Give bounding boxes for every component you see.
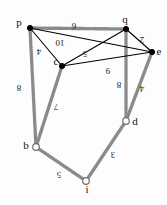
graph-edge-q-e: [126, 29, 152, 52]
graph-diagram: 6104592848753 pqecdbi: [0, 0, 167, 205]
graph-edge-e-d: [126, 52, 152, 121]
node-label-e: e: [157, 45, 162, 57]
edge-weight-p-c: 4: [36, 47, 41, 57]
graph-node-q[interactable]: [123, 26, 128, 31]
edge-weight-q-e: 2: [140, 35, 145, 45]
graph-edge-c-q: [62, 29, 126, 66]
plain-edge-layer: [30, 28, 152, 66]
edge-weight-p-q: 6: [71, 21, 76, 31]
edge-weight-p-e: 10: [55, 38, 65, 48]
edge-weight-e-d: 4: [139, 84, 144, 94]
node-label-d: d: [132, 115, 138, 127]
edge-weight-i-d: 3: [110, 150, 115, 160]
node-label-b: b: [23, 139, 29, 151]
edge-weight-c-q: 5: [82, 49, 87, 59]
graph-node-p[interactable]: [27, 25, 32, 30]
graph-edge-p-q: [30, 28, 126, 29]
edge-weight-p-b: 8: [16, 83, 21, 93]
edge-weight-c-b: 7: [53, 102, 58, 112]
graph-canvas: 6104592848753 pqecdbi: [0, 0, 167, 205]
graph-node-d[interactable]: [123, 118, 130, 125]
node-label-q: q: [122, 13, 128, 25]
edge-weight-c-e: 9: [105, 66, 110, 76]
tree-edge-layer: [30, 28, 152, 181]
graph-edge-p-b: [30, 28, 36, 147]
graph-edge-i-d: [86, 121, 126, 181]
node-label-p: p: [16, 16, 22, 28]
graph-node-e[interactable]: [149, 49, 154, 54]
graph-node-c[interactable]: [59, 63, 64, 68]
graph-edge-p-e: [30, 28, 152, 52]
edge-weight-b-i: 5: [56, 170, 61, 180]
edge-weight-q-d: 8: [116, 80, 121, 90]
node-label-i: i: [85, 183, 88, 195]
graph-node-b[interactable]: [33, 144, 40, 151]
node-label-c: c: [54, 55, 59, 67]
graph-edge-c-e: [62, 52, 152, 66]
